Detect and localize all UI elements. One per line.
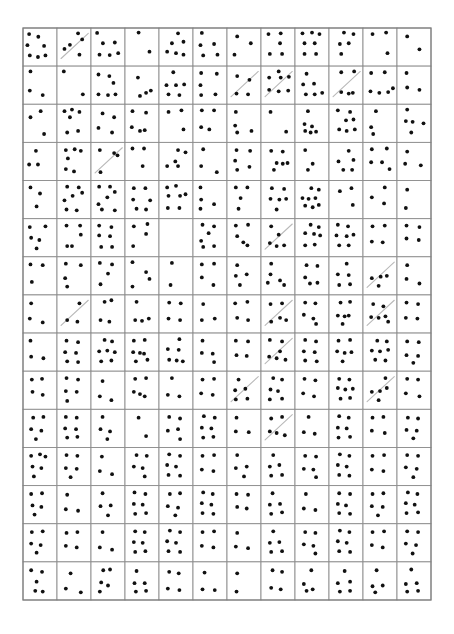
dot-mark xyxy=(64,587,68,591)
dot-mark xyxy=(33,589,37,593)
dot-mark xyxy=(246,340,250,344)
dot-mark xyxy=(106,513,110,517)
dot-mark xyxy=(29,186,33,190)
dot-mark xyxy=(278,349,282,353)
grid-cell xyxy=(125,28,159,66)
dot-mark xyxy=(276,389,280,393)
dot-mark xyxy=(200,468,204,472)
dot-mark xyxy=(110,245,114,249)
dot-mark xyxy=(350,168,354,172)
dot-mark xyxy=(65,285,69,289)
dot-mark xyxy=(105,437,109,441)
dot-mark xyxy=(201,378,205,382)
dot-mark xyxy=(132,390,136,394)
dot-mark xyxy=(105,349,109,353)
grid-cell xyxy=(125,562,159,600)
grid-cell xyxy=(193,562,227,600)
dot-mark xyxy=(99,581,103,585)
dot-mark xyxy=(266,281,270,285)
dot-mark xyxy=(234,186,238,190)
dot-mark xyxy=(415,467,419,471)
dot-mark xyxy=(234,224,238,228)
dot-mark xyxy=(318,32,322,36)
grid-cell xyxy=(91,524,125,562)
dot-mark xyxy=(309,186,313,190)
dot-mark xyxy=(214,92,218,96)
dot-mark xyxy=(235,74,239,78)
dot-mark xyxy=(305,72,309,76)
dot-mark xyxy=(212,262,216,266)
grid-cell xyxy=(363,562,397,600)
dot-mark xyxy=(268,338,272,342)
dot-mark xyxy=(405,511,409,515)
dot-mark xyxy=(36,55,40,59)
dot-mark xyxy=(143,475,147,479)
dot-mark xyxy=(133,377,137,381)
dot-mark xyxy=(382,202,386,206)
dot-mark xyxy=(409,131,413,135)
dot-mark xyxy=(70,108,74,112)
dot-mark xyxy=(199,164,203,168)
dot-mark xyxy=(144,186,148,190)
dot-mark xyxy=(245,465,249,469)
dot-mark xyxy=(167,452,171,456)
grid-cell xyxy=(261,257,295,295)
dot-mark xyxy=(303,122,307,126)
grid-cell xyxy=(295,371,329,409)
dot-mark xyxy=(280,397,284,401)
dot-mark xyxy=(418,225,422,229)
dot-mark xyxy=(416,302,420,306)
dot-mark xyxy=(30,530,34,534)
grid-cell xyxy=(397,181,431,219)
dot-mark xyxy=(384,31,388,35)
grid-cell xyxy=(329,28,363,66)
dot-mark xyxy=(178,417,182,421)
dot-mark xyxy=(405,237,409,241)
dot-mark xyxy=(144,492,148,496)
dot-mark xyxy=(40,570,44,574)
dot-mark xyxy=(337,473,341,477)
dot-mark xyxy=(414,543,418,547)
dot-mark xyxy=(201,491,205,495)
grid-cell xyxy=(397,333,431,371)
dot-mark xyxy=(405,377,409,381)
dot-mark xyxy=(370,147,374,151)
grid-cell xyxy=(397,142,431,180)
dot-mark xyxy=(417,238,421,242)
dot-mark xyxy=(302,507,306,511)
grid-cell xyxy=(193,66,227,104)
dot-mark xyxy=(338,590,342,594)
dot-mark xyxy=(142,147,146,151)
grid-cell xyxy=(295,181,329,219)
dot-mark xyxy=(66,157,70,161)
grid-cell xyxy=(397,104,431,142)
dot-mark xyxy=(133,512,137,516)
dot-mark xyxy=(144,434,148,438)
dot-mark xyxy=(279,31,283,35)
dot-mark xyxy=(179,301,183,305)
grid-cells-layer xyxy=(23,28,431,600)
dot-mark xyxy=(311,317,315,321)
dot-mark xyxy=(199,198,203,202)
dot-mark xyxy=(200,351,204,355)
dot-mark xyxy=(212,283,216,287)
dot-mark xyxy=(248,78,252,82)
dot-mark xyxy=(166,393,170,397)
dot-mark xyxy=(167,549,171,553)
dot-mark xyxy=(418,282,422,286)
dot-mark xyxy=(303,148,307,152)
dot-mark xyxy=(305,589,309,593)
grid-cell xyxy=(159,257,193,295)
dot-mark xyxy=(75,545,79,549)
dot-mark xyxy=(131,260,135,264)
dot-mark xyxy=(199,93,203,97)
dot-mark xyxy=(280,415,284,419)
dot-mark xyxy=(149,89,153,93)
dot-mark xyxy=(176,31,180,35)
dot-mark xyxy=(64,389,68,393)
dot-mark xyxy=(303,301,307,305)
dot-mark xyxy=(385,340,389,344)
dot-mark xyxy=(35,580,39,584)
grid-cell xyxy=(23,257,57,295)
dot-mark xyxy=(406,491,410,495)
